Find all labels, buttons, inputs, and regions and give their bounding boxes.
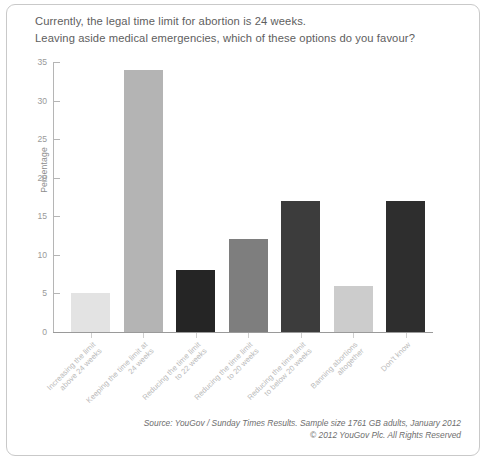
bars-group xyxy=(7,5,481,332)
x-axis-line xyxy=(53,332,433,333)
footer-copyright: © 2012 YouGov Plc. All Rights Reserved xyxy=(144,429,461,441)
bar xyxy=(281,201,320,332)
x-tick xyxy=(248,333,249,338)
x-tick xyxy=(143,333,144,338)
chart-poster: Currently, the legal time limit for abor… xyxy=(6,4,480,456)
footer: Source: YouGov / Sunday Times Results. S… xyxy=(144,417,461,441)
bar xyxy=(386,201,425,332)
bar-chart: Percentage 05101520253035 Increasing the… xyxy=(7,5,481,457)
bar xyxy=(334,286,373,332)
bar xyxy=(124,70,163,332)
x-tick xyxy=(301,333,302,338)
bar xyxy=(71,293,110,332)
bar xyxy=(176,270,215,332)
x-tick xyxy=(353,333,354,338)
x-tick xyxy=(91,333,92,338)
bar xyxy=(229,239,268,332)
x-tick xyxy=(196,333,197,338)
x-tick xyxy=(406,333,407,338)
footer-source: Source: YouGov / Sunday Times Results. S… xyxy=(144,417,461,429)
